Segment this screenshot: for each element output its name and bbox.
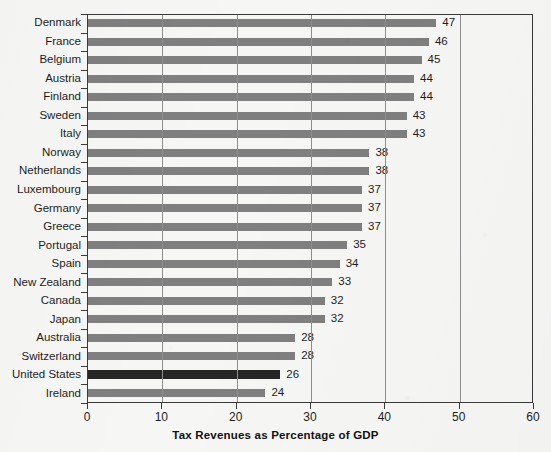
x-axis-tick-label-40: 40 (378, 410, 391, 424)
y-axis-tick (81, 384, 87, 385)
category-label-austria: Austria (45, 72, 81, 85)
category-label-spain: Spain (52, 257, 81, 270)
y-axis-tick (81, 70, 87, 71)
category-label-australia: Australia (36, 331, 81, 344)
y-axis-tick (81, 144, 87, 145)
x-axis-tick-30 (310, 403, 311, 409)
category-label-portugal: Portugal (38, 239, 81, 252)
y-axis-tick (81, 366, 87, 367)
category-label-netherlands: Netherlands (19, 164, 81, 177)
y-axis-tick (81, 14, 87, 15)
x-axis-tick-label-10: 10 (155, 410, 168, 424)
y-axis-tick (81, 236, 87, 237)
category-label-finland: Finland (43, 90, 81, 103)
gridline-20 (237, 15, 238, 402)
category-label-new-zealand: New Zealand (13, 276, 81, 289)
plot-area (87, 14, 533, 403)
x-axis-tick-label-30: 30 (303, 410, 316, 424)
y-axis-tick (81, 292, 87, 293)
category-label-norway: Norway (42, 146, 81, 159)
y-axis-tick (81, 88, 87, 89)
x-axis-tick-0 (87, 403, 88, 409)
category-label-switzerland: Switzerland (22, 350, 81, 363)
category-label-ireland: Ireland (46, 387, 81, 400)
y-axis-tick (81, 347, 87, 348)
bar-chart: 4746454444434338383737373534333232282826… (0, 0, 551, 452)
y-axis-tick (81, 107, 87, 108)
category-label-luxembourg: Luxembourg (17, 183, 81, 196)
y-axis-tick (81, 199, 87, 200)
x-axis-tick-label-60: 60 (526, 410, 539, 424)
x-axis-tick-label-50: 50 (452, 410, 465, 424)
y-axis-tick (81, 218, 87, 219)
y-axis-tick (81, 329, 87, 330)
y-axis-tick (81, 125, 87, 126)
x-axis-tick-10 (161, 403, 162, 409)
category-label-germany: Germany (34, 202, 81, 215)
y-axis-tick (81, 273, 87, 274)
category-label-sweden: Sweden (39, 109, 81, 122)
x-axis-tick-50 (459, 403, 460, 409)
y-axis-tick (81, 33, 87, 34)
y-axis-tick (81, 162, 87, 163)
category-label-greece: Greece (43, 220, 81, 233)
category-label-italy: Italy (60, 127, 81, 140)
y-axis-tick (81, 181, 87, 182)
x-axis-tick-40 (384, 403, 385, 409)
y-axis-tick (81, 51, 87, 52)
category-label-denmark: Denmark (34, 16, 81, 29)
y-axis-tick (81, 255, 87, 256)
x-axis-tick-label-20: 20 (229, 410, 242, 424)
x-axis-title: Tax Revenues as Percentage of GDP (0, 429, 551, 441)
category-label-canada: Canada (41, 294, 81, 307)
category-label-france: France (45, 35, 81, 48)
gridline-10 (162, 15, 163, 402)
gridline-30 (311, 15, 312, 402)
x-axis-tick-20 (236, 403, 237, 409)
category-label-belgium: Belgium (39, 53, 81, 66)
gridline-40 (385, 15, 386, 402)
gridline-50 (460, 15, 461, 402)
x-axis-tick-60 (533, 403, 534, 409)
x-axis-tick-label-0: 0 (84, 410, 91, 424)
y-axis-tick (81, 310, 87, 311)
category-label-japan: Japan (50, 313, 81, 326)
category-label-united-states: United States (12, 368, 81, 381)
